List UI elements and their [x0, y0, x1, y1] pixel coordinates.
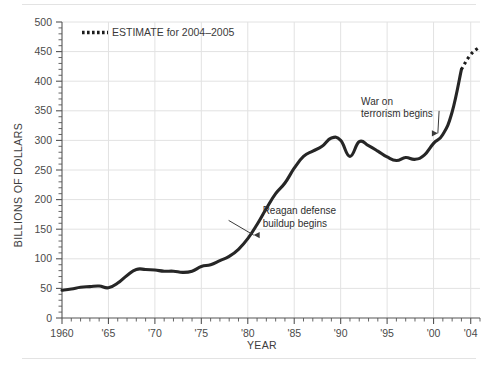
y-tick-label: 350 [34, 104, 52, 116]
y-tick-label: 150 [34, 223, 52, 235]
annotation-arrowhead [432, 130, 438, 136]
y-tick-label: 0 [46, 312, 52, 324]
annotation-text-line: Reagan defense [263, 205, 337, 216]
annotation: War onterrorism begins [361, 96, 439, 137]
line-actual [62, 69, 461, 290]
x-tick-label: '95 [380, 327, 394, 339]
x-tick-label: '70 [148, 327, 162, 339]
chart-canvas: 050100150200250300350400450500 1960'65'7… [0, 0, 498, 371]
y-tick-label: 100 [34, 252, 52, 264]
x-tick-label: '85 [287, 327, 301, 339]
y-axis-tick-labels: 050100150200250300350400450500 [34, 16, 52, 324]
y-tick-label: 400 [34, 75, 52, 87]
annotation-leader-line [438, 111, 439, 133]
x-axis-title: YEAR [247, 339, 277, 351]
legend-label-estimate: ESTIMATE for 2004–2005 [112, 26, 235, 38]
chart-legend: ESTIMATE for 2004–2005 [82, 26, 235, 38]
y-tick-label: 500 [34, 16, 52, 28]
y-tick-label: 250 [34, 164, 52, 176]
x-tick-label: '80 [241, 327, 255, 339]
annotation-text-line: buildup begins [263, 218, 328, 229]
x-tick-label: '90 [334, 327, 348, 339]
x-tick-label: 1960 [50, 327, 74, 339]
x-tick-label: '75 [194, 327, 208, 339]
x-axis-tick-labels: 1960'65'70'75'80'85'90'95'00'04 [50, 327, 477, 339]
x-tick-label: '04 [464, 327, 478, 339]
y-tick-label: 450 [34, 45, 52, 57]
annotation-text-line: War on [361, 96, 393, 107]
annotation-leader-line [229, 220, 254, 235]
y-tick-label: 300 [34, 134, 52, 146]
top-divider [22, 4, 476, 5]
y-tick-label: 50 [40, 282, 52, 294]
annotation: Reagan defensebuildup begins [229, 205, 337, 238]
horizontal-gridlines [62, 22, 480, 288]
x-tick-label: '00 [427, 327, 441, 339]
defense-spending-chart: 050100150200250300350400450500 1960'65'7… [0, 0, 498, 371]
annotation-text-line: terrorism begins [361, 108, 433, 119]
y-axis-title: BILLIONS OF DOLLARS [12, 123, 24, 247]
y-axis-major-ticks [56, 22, 62, 318]
x-tick-label: '65 [102, 327, 116, 339]
annotation-arrowhead [254, 232, 260, 238]
y-tick-label: 200 [34, 193, 52, 205]
series-line-actual [62, 69, 461, 290]
bottom-divider [22, 358, 476, 359]
